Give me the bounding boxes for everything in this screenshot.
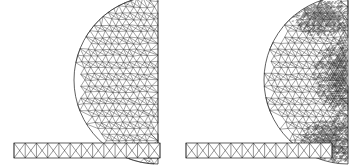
beam-strip-mesh [186, 143, 332, 158]
half-disk-mesh [264, 0, 348, 164]
uniform-mesh-canvas [0, 0, 178, 168]
mesh-panel-adaptive [178, 0, 355, 168]
figure-root [0, 0, 355, 168]
mesh-panel-uniform [0, 0, 178, 168]
beam-strip-mesh [14, 143, 160, 158]
half-disk-mesh [74, 0, 158, 164]
adaptive-mesh-canvas [178, 0, 355, 168]
